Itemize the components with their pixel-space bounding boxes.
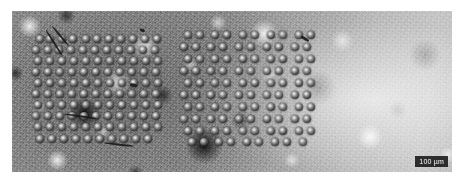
bead <box>251 55 259 63</box>
bead <box>44 46 52 54</box>
bead <box>275 91 283 99</box>
bead <box>184 103 192 111</box>
bead <box>80 68 88 76</box>
bead <box>295 127 303 135</box>
bead <box>275 67 283 75</box>
bead <box>70 57 78 65</box>
bead <box>303 67 311 75</box>
bead <box>115 46 123 54</box>
bead <box>82 123 90 131</box>
bead <box>207 115 215 123</box>
bead <box>275 115 282 122</box>
bead <box>211 55 219 63</box>
bead <box>72 135 80 143</box>
bead <box>130 101 138 109</box>
bead <box>130 123 138 131</box>
bead <box>56 68 63 75</box>
bead <box>295 55 302 62</box>
bead <box>307 55 315 63</box>
bead <box>67 46 74 53</box>
bead <box>32 112 39 119</box>
bead <box>267 55 275 63</box>
bead <box>192 115 200 123</box>
bead <box>295 103 303 111</box>
bead <box>70 123 77 130</box>
bead <box>192 91 200 99</box>
bead <box>263 67 271 75</box>
bead <box>215 138 223 146</box>
bead <box>91 46 99 54</box>
bead <box>223 103 230 110</box>
bead <box>223 55 231 63</box>
bead <box>192 43 200 51</box>
bead <box>58 101 66 109</box>
bead <box>36 35 43 42</box>
bead <box>291 91 299 99</box>
substrate-grain-layer <box>12 11 452 172</box>
bead <box>116 68 124 76</box>
bead <box>219 67 227 75</box>
bead <box>34 57 42 65</box>
bead <box>140 68 147 75</box>
bead <box>263 91 270 98</box>
bead <box>130 57 138 65</box>
micrograph-figure: 100 µm <box>0 0 463 184</box>
bead <box>36 135 44 143</box>
bead <box>279 103 287 111</box>
micrograph-image: 100 µm <box>12 11 452 172</box>
bead <box>184 31 191 38</box>
bead <box>151 46 158 53</box>
bead <box>93 35 101 43</box>
bead <box>271 138 279 146</box>
bead <box>255 138 263 146</box>
bead <box>127 46 135 54</box>
bead <box>211 127 219 135</box>
bead <box>56 112 64 120</box>
bead <box>267 79 275 87</box>
bead <box>140 112 148 120</box>
bead <box>307 127 315 135</box>
bead <box>68 68 76 76</box>
bead <box>56 90 64 98</box>
bead <box>128 112 136 120</box>
bead <box>235 115 243 123</box>
bead <box>207 43 215 51</box>
bead <box>184 79 192 87</box>
bead <box>247 67 254 74</box>
bead <box>129 35 137 43</box>
bead <box>34 79 42 87</box>
bead <box>82 35 90 43</box>
bead <box>235 43 242 50</box>
bead <box>291 115 299 123</box>
bead <box>307 79 314 86</box>
bead <box>303 115 311 123</box>
bead <box>239 127 246 134</box>
bead <box>106 101 114 109</box>
bead <box>263 43 271 51</box>
bead <box>82 101 89 108</box>
bead <box>152 68 160 76</box>
bead <box>239 79 247 87</box>
bead <box>94 101 102 109</box>
bead <box>32 46 40 54</box>
bead <box>70 79 78 87</box>
bead <box>279 31 286 38</box>
bead <box>106 79 114 87</box>
bead <box>196 103 204 111</box>
bead <box>46 57 54 65</box>
bead <box>141 35 149 43</box>
bead <box>94 79 101 86</box>
bead <box>211 31 219 39</box>
bead <box>299 138 306 145</box>
bead <box>223 79 231 87</box>
bead <box>132 135 140 143</box>
bead <box>154 79 162 87</box>
bead <box>82 57 90 65</box>
bead <box>128 90 135 97</box>
bead <box>291 43 299 51</box>
bead <box>251 103 259 111</box>
bead <box>44 90 51 97</box>
bead <box>106 57 113 64</box>
bead <box>104 90 112 98</box>
bead <box>58 79 66 87</box>
